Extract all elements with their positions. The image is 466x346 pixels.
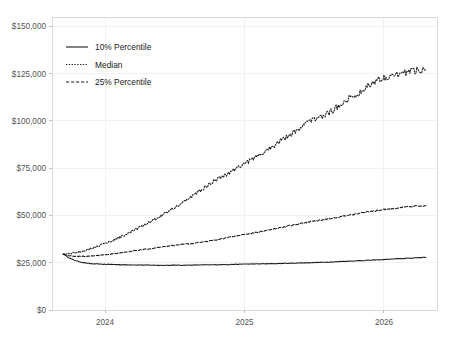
x-tick-label: 2024	[96, 318, 115, 327]
y-tick-label: $75,000	[16, 164, 46, 173]
y-tick-label: $25,000	[16, 259, 46, 268]
percentile-projection-line-chart: $0$25,000$50,000$75,000$100,000$125,000$…	[0, 0, 466, 346]
x-tick-label: 2026	[375, 318, 394, 327]
legend-label[interactable]: 10% Percentile	[95, 42, 152, 52]
y-tick-label: $50,000	[16, 211, 46, 220]
chart-figure: $0$25,000$50,000$75,000$100,000$125,000$…	[0, 0, 466, 346]
y-tick-label: $100,000	[12, 117, 47, 126]
y-tick-label: $150,000	[12, 22, 47, 31]
x-tick-label: 2025	[235, 318, 254, 327]
y-tick-label: $0	[37, 306, 47, 315]
legend-label[interactable]: 25% Percentile	[95, 77, 152, 87]
y-tick-label: $125,000	[12, 70, 47, 79]
legend-label[interactable]: Median	[95, 60, 123, 70]
